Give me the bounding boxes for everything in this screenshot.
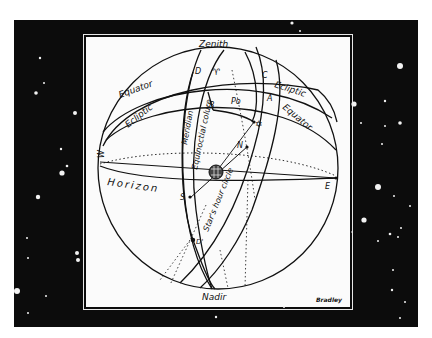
point-a-label: A	[266, 94, 272, 103]
background-star	[299, 30, 301, 32]
ecliptic-left-label: Ecliptic	[123, 102, 155, 130]
background-star	[393, 195, 395, 197]
background-star	[404, 301, 406, 303]
background-star	[60, 148, 62, 150]
vertical-circle	[245, 52, 256, 122]
star-icon: ✡	[255, 119, 263, 129]
equator-upper-label: Equator	[117, 78, 155, 100]
background-star	[66, 165, 69, 168]
background-star	[391, 289, 393, 291]
background-star	[399, 317, 401, 319]
point-s-dot	[188, 195, 191, 198]
point-n-label: N	[237, 141, 243, 150]
background-star	[384, 100, 386, 102]
meridian-label: Meridian	[180, 110, 195, 146]
earth-globe-icon	[209, 165, 223, 179]
point-e-label: E	[325, 182, 331, 191]
background-star	[361, 217, 366, 222]
background-star	[59, 170, 64, 175]
nadir-label: Nadir	[202, 292, 227, 302]
background-star	[76, 258, 80, 262]
horizon-label: Horizon	[107, 176, 160, 194]
background-star	[409, 205, 411, 207]
background-star	[26, 237, 28, 239]
background-star	[215, 316, 217, 318]
point-aries-label: ♈	[212, 67, 220, 77]
polar-distance-arc	[213, 110, 254, 122]
background-star	[290, 21, 293, 24]
background-star	[75, 251, 79, 255]
point-s-label: S	[180, 193, 185, 202]
background-star	[375, 184, 381, 190]
background-star	[398, 121, 402, 125]
back-dotted-4	[160, 240, 190, 280]
background-star	[389, 233, 392, 236]
background-star	[400, 227, 402, 229]
point-b-label: B	[209, 101, 215, 110]
background-star	[14, 288, 20, 294]
zenith-label: Zenith	[198, 39, 228, 49]
background-star	[397, 236, 399, 238]
celestial-sphere-diagram: Zenith Nadir Equator Ecliptic Ecliptic E…	[0, 0, 432, 338]
background-star	[384, 125, 386, 127]
background-star	[39, 57, 41, 59]
point-c-label: C	[262, 71, 268, 80]
signature: Bradley	[316, 296, 343, 304]
background-star	[27, 257, 29, 259]
point-w-label: W	[97, 149, 106, 158]
background-star	[377, 240, 379, 242]
background-star	[73, 111, 77, 115]
background-star	[351, 101, 356, 106]
background-star	[351, 231, 353, 233]
background-star	[34, 91, 38, 95]
background-star	[360, 122, 362, 124]
point-e-dot	[334, 176, 337, 179]
background-star	[397, 63, 403, 69]
background-star	[43, 82, 45, 84]
point-n-dot	[245, 145, 248, 148]
background-star	[392, 269, 394, 271]
point-d-prime-label: D'	[196, 238, 203, 246]
background-star	[45, 295, 47, 297]
background-star	[36, 195, 40, 199]
point-po-label: Po	[231, 97, 241, 106]
background-star	[27, 312, 29, 314]
point-d-label: D	[195, 67, 201, 76]
point-d-prime-dot	[191, 238, 195, 242]
background-star	[381, 143, 383, 145]
background-star	[283, 306, 285, 308]
back-dotted-2	[245, 180, 248, 288]
